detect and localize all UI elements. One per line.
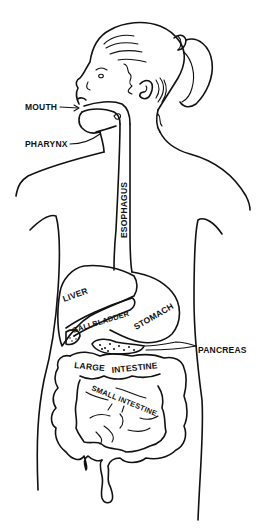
liver: LIVER bbox=[58, 265, 137, 346]
large-intestine-label-2: INTESTINE bbox=[111, 360, 158, 375]
pharynx-label: PHARYNX bbox=[25, 139, 68, 149]
esophagus-label: ESOPHAGUS bbox=[119, 182, 129, 238]
digestive-system-diagram: ESOPHAGUS LIVER GALLBLADDER STOMACH bbox=[0, 0, 266, 532]
eye-icon bbox=[99, 74, 104, 78]
esophagus: ESOPHAGUS bbox=[114, 124, 132, 272]
pancreas-label: PANCREAS bbox=[198, 345, 247, 355]
small-intestine-label: SMALL INTESTINE bbox=[90, 384, 158, 419]
head-outline bbox=[76, 23, 212, 134]
stomach: STOMACH bbox=[110, 272, 180, 343]
gallbladder-label: GALLBLADDER bbox=[71, 309, 131, 335]
mouth-arrow-icon bbox=[60, 107, 78, 108]
small-intestine: SMALL INTESTINE bbox=[75, 380, 166, 452]
large-intestine-label-1: LARGE bbox=[74, 360, 106, 373]
mouth-label: MOUTH bbox=[25, 102, 57, 112]
large-intestine: LARGE INTESTINE bbox=[52, 352, 188, 503]
oral-cavity bbox=[82, 102, 130, 132]
pancreas: PANCREAS bbox=[92, 339, 247, 355]
liver-label: LIVER bbox=[61, 286, 89, 304]
stomach-label: STOMACH bbox=[132, 301, 175, 332]
pharynx-pointer bbox=[70, 134, 100, 144]
